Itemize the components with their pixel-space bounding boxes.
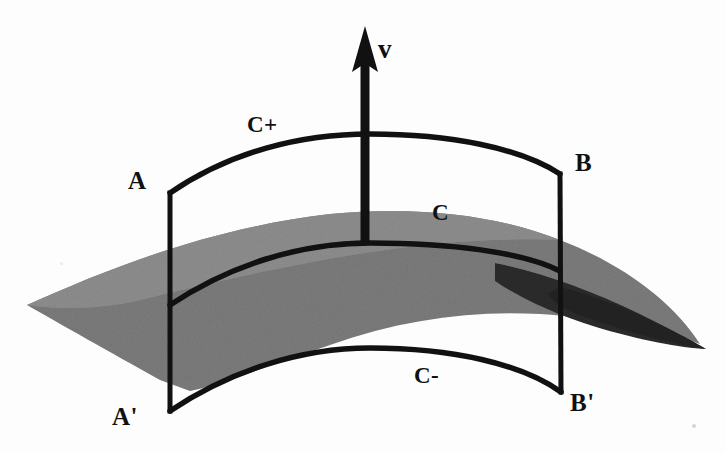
label-curve-c-minus: C- — [414, 364, 439, 387]
label-corner-a-prime: A' — [112, 404, 138, 429]
edge-b-bprime — [560, 174, 561, 392]
label-normal-vector: v — [378, 36, 392, 63]
surface-diagram-svg — [0, 0, 726, 453]
label-curve-c: C — [432, 201, 449, 224]
label-curve-c-plus: C+ — [247, 113, 278, 136]
label-corner-a: A — [128, 168, 147, 193]
label-corner-b-prime: B' — [570, 390, 595, 415]
figure-canvas: v C+ A B C C- A' B' — [0, 0, 726, 453]
label-corner-b: B — [575, 150, 592, 175]
